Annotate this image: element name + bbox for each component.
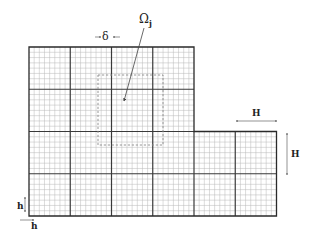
coarse-size-label-right: H [291,149,300,159]
subdomain-omega-symbol: Ω [139,12,149,26]
subdomain-index: j [148,18,152,28]
fine-size-label-bottom: h [31,221,38,231]
fine-size-vertical: h [17,197,25,212]
overlap-delta-label: δ [102,30,109,43]
fine-size-horizontal: h [20,220,38,231]
subdomain-label: Ω j [139,12,152,28]
overlap-dimension: δ [95,30,120,43]
domain-decomposition-diagram: Ω j δ H H h h [0,0,315,244]
coarse-size-label-top: H [252,108,261,118]
coarse-size-vertical: H [287,133,300,175]
coarse-size-horizontal: H [236,108,277,121]
fine-size-label-left: h [17,201,24,211]
